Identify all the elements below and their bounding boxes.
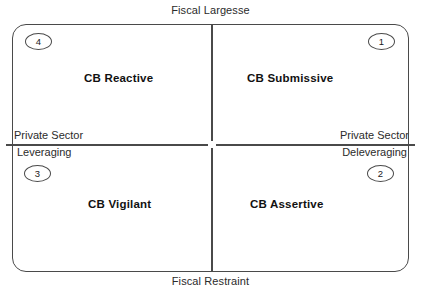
axis-intersection-gap (208, 141, 216, 148)
axis-label-fiscal-largesse: Fiscal Largesse (0, 4, 421, 17)
quadrant-label-cb-submissive: CB Submissive (247, 72, 333, 84)
quadrant-label-cb-vigilant: CB Vigilant (88, 198, 151, 210)
quadrant-label-cb-assertive: CB Assertive (250, 198, 324, 210)
quadrant-number-badge-3: 3 (24, 165, 51, 182)
vertical-axis-line (211, 24, 213, 272)
quadrant-number-badge-4: 4 (25, 33, 52, 50)
quadrant-number-badge-1: 1 (368, 33, 395, 50)
quadrant-label-cb-reactive: CB Reactive (84, 72, 153, 84)
quadrant-matrix-figure: Fiscal Largesse Fiscal Restraint Private… (0, 0, 421, 293)
quadrant-number-badge-2: 2 (367, 165, 394, 182)
axis-label-fiscal-restraint: Fiscal Restraint (0, 275, 421, 288)
